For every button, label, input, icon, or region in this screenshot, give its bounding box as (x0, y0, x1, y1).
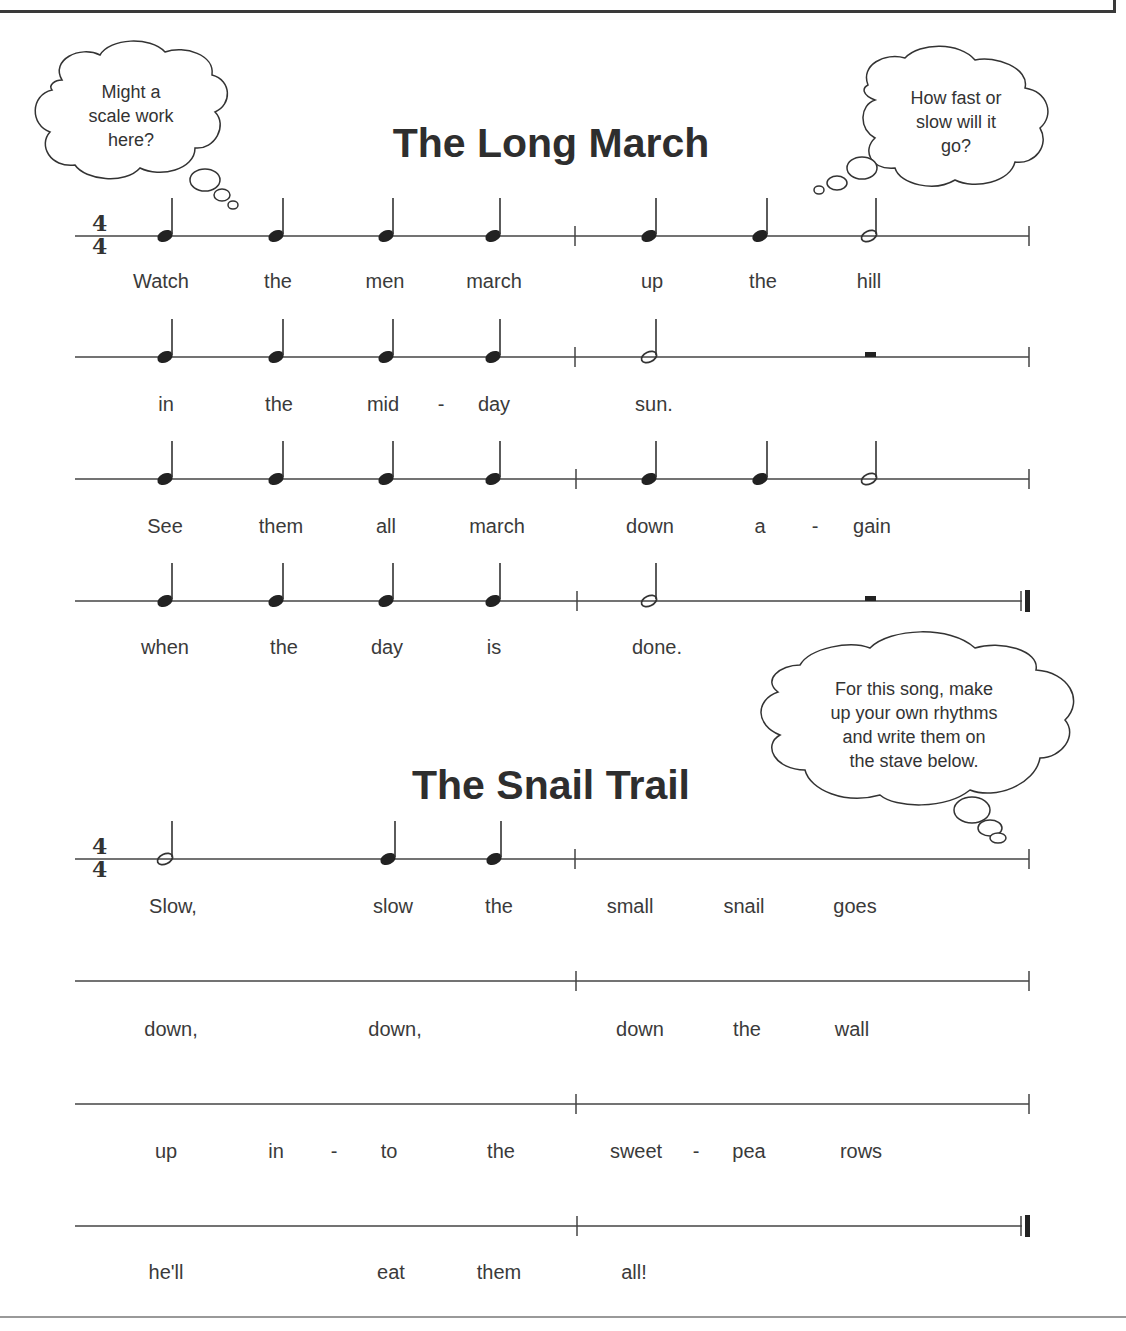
lyric: up (155, 1140, 177, 1163)
lyric: in (268, 1140, 284, 1163)
lyric: is (487, 636, 501, 659)
lyric: day (478, 393, 510, 416)
lyric: - (812, 515, 819, 538)
bottom-rule (0, 1316, 1126, 1318)
lyric: mid (367, 393, 399, 416)
lyric: - (438, 393, 445, 416)
lyric: done. (632, 636, 682, 659)
final-barline-long-march (1025, 590, 1030, 612)
lyric: the (749, 270, 777, 293)
lyric: eat (377, 1261, 405, 1284)
lyric: up (641, 270, 663, 293)
lyric: march (469, 515, 525, 538)
lyric: sweet (610, 1140, 662, 1163)
lyric: small (607, 895, 654, 918)
bubble-text-scale: Might a scale work here? (88, 80, 173, 152)
lyric: pea (732, 1140, 765, 1163)
lyric: men (366, 270, 405, 293)
lyric: the (485, 895, 513, 918)
lyric: Watch (133, 270, 189, 293)
lyric: wall (835, 1018, 869, 1041)
lyric: them (477, 1261, 521, 1284)
lyric: goes (833, 895, 876, 918)
lyric: sun. (635, 393, 673, 416)
bubble-text-tempo: How fast or slow will it go? (910, 86, 1001, 158)
music-staves: 44 44 (0, 0, 1126, 1331)
lyric: down (616, 1018, 664, 1041)
lyric: when (141, 636, 189, 659)
lyric: all! (621, 1261, 647, 1284)
lyric: the (264, 270, 292, 293)
lyric: - (693, 1140, 700, 1163)
lyric: snail (723, 895, 764, 918)
lyric: day (371, 636, 403, 659)
svg-text:4: 4 (92, 233, 107, 259)
lyric: See (147, 515, 183, 538)
lyric: them (259, 515, 303, 538)
lyric: hill (857, 270, 881, 293)
lyric: to (381, 1140, 398, 1163)
final-barline-snail-trail (1025, 1215, 1030, 1237)
lyric: down, (368, 1018, 421, 1041)
lyric: the (733, 1018, 761, 1041)
lyric: slow (373, 895, 413, 918)
lyric: a (754, 515, 765, 538)
lyric: gain (853, 515, 891, 538)
lyric: he'll (149, 1261, 184, 1284)
lyric: march (466, 270, 522, 293)
lyric: down (626, 515, 674, 538)
lyric: the (270, 636, 298, 659)
lyric: the (487, 1140, 515, 1163)
lyric: down, (144, 1018, 197, 1041)
lyric: - (331, 1140, 338, 1163)
lyric: rows (840, 1140, 882, 1163)
lyric: all (376, 515, 396, 538)
lyric: Slow, (149, 895, 197, 918)
svg-text:4: 4 (92, 856, 107, 882)
bubble-text-rhythms: For this song, make up your own rhythms … (830, 677, 997, 773)
lyric: the (265, 393, 293, 416)
lyric: in (158, 393, 174, 416)
